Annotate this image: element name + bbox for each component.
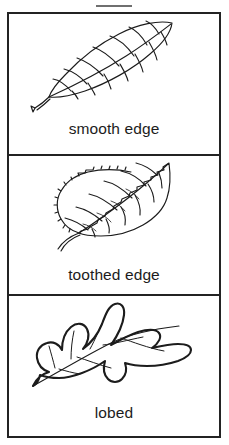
smooth-edge-leaf-icon — [9, 14, 219, 114]
diagram-frame: smooth edge — [7, 12, 221, 438]
figure-root: smooth edge — [0, 0, 229, 445]
panel-smooth-edge: smooth edge — [9, 14, 219, 154]
lobed-leaf-icon — [9, 296, 219, 396]
panel-label-lobed: lobed — [9, 404, 219, 422]
toothed-edge-leaf-icon — [9, 156, 219, 256]
panel-toothed-edge: toothed edge — [9, 154, 219, 296]
panel-lobed: lobed — [9, 296, 219, 436]
panel-label-smooth-edge: smooth edge — [9, 120, 219, 138]
panel-label-toothed-edge: toothed edge — [9, 266, 219, 284]
scan-artifact-line — [96, 5, 132, 7]
